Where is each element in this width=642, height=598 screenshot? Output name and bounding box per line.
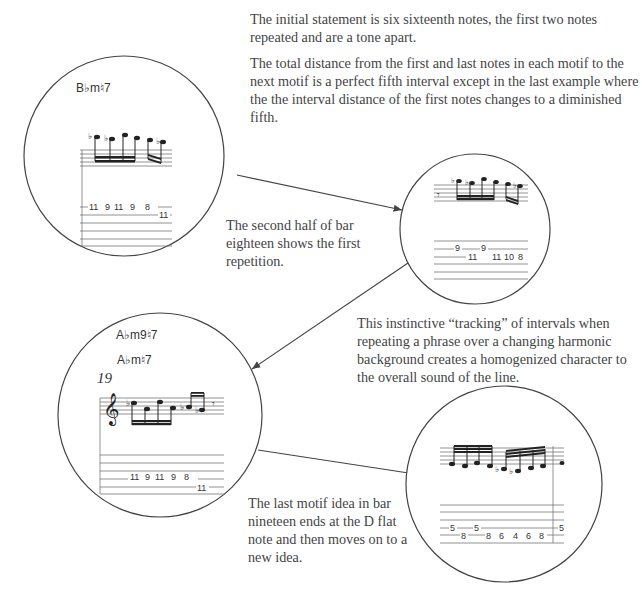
svg-text:♭: ♭ [104,133,108,143]
diagram-canvas: B♭m♮7 ♭♭ ♭ 11 9 [0,0,642,598]
arrow-3-to-4 [258,450,415,474]
tab-number: 4 [513,531,518,541]
svg-text:♭: ♭ [465,178,469,187]
excerpt-circle-4: ♭♭ 5 5 5 8 8 6 4 6 8 [406,386,602,582]
tab-number: 8 [486,531,491,541]
tab-number: 8 [184,472,189,482]
tab-number: 9 [481,243,486,253]
arrow-1-to-2 [237,175,402,210]
tab-number: 11 [197,483,206,493]
svg-text:♭: ♭ [180,402,184,412]
svg-text:♭: ♭ [88,131,92,141]
tab-number: 9 [130,202,135,212]
tab-number: 8 [145,202,150,212]
treble-clef-icon: 𝄞 [103,393,120,426]
excerpt-circle-3: A♭m9♮7 A♭m♮7 19 𝄞 ♭♭ ♭ 𝄾 [58,313,262,517]
arrow-2-to-3 [252,263,408,369]
tab-number: 11 [130,472,139,482]
tab-number: 8 [518,252,523,262]
tab-number: 11 [159,210,168,220]
tab-number: 6 [526,531,531,541]
tab-number: 11 [468,252,477,262]
svg-text:♭: ♭ [495,464,499,474]
tab-number: 9 [145,472,150,482]
svg-text:♭: ♭ [195,405,199,415]
tab-number: 8 [539,531,544,541]
tab-number: 11 [114,202,123,212]
tab-number: 6 [499,531,504,541]
tab-number: 5 [474,523,479,533]
tab-number: 5 [450,523,455,533]
svg-text:♭: ♭ [513,181,517,190]
chord-symbol: B♭m♮7 [76,81,111,95]
tab-number: 9 [105,202,110,212]
excerpt-circle-1: B♭m♮7 ♭♭ ♭ 11 9 [24,56,224,256]
tab-number: 10 [504,252,514,262]
tab-number: 11 [492,252,501,262]
chord-symbol: A♭m♮7 [117,353,152,367]
tab-number: 11 [89,202,98,212]
tab-number: 9 [171,472,176,482]
bar-number: 19 [97,370,113,386]
tab-number: 9 [455,243,460,253]
tab-number: 11 [155,472,164,482]
svg-text:♭: ♭ [451,176,455,185]
tab-number: 5 [559,523,564,533]
svg-text:♭: ♭ [126,398,130,408]
tab-number: 8 [461,531,466,541]
chord-symbol: A♭m9♮7 [116,328,158,342]
excerpt-circle-2: 𝄾 ♭♭ ♭ 9 9 11 11 10 8 [400,154,550,304]
svg-text:♭: ♭ [509,466,513,476]
svg-text:♭: ♭ [156,136,160,146]
